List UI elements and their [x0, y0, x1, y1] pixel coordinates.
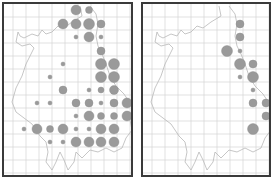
- record-dot: [48, 75, 52, 79]
- record-dot: [236, 33, 244, 41]
- record-dot: [87, 127, 91, 131]
- record-dot: [74, 114, 78, 118]
- record-dot: [222, 46, 233, 57]
- record-dot: [97, 20, 105, 28]
- record-dot: [71, 137, 81, 147]
- record-dot: [235, 59, 246, 70]
- record-dot: [96, 72, 107, 83]
- map-right-svg: [143, 4, 271, 177]
- record-dot: [110, 86, 119, 95]
- record-dot: [61, 140, 65, 144]
- record-dot: [58, 19, 68, 29]
- record-dot: [122, 111, 132, 121]
- record-dot: [248, 124, 259, 135]
- record-dot: [111, 113, 118, 120]
- record-dot: [74, 35, 78, 39]
- record-dot: [48, 101, 52, 105]
- record-dot: [96, 124, 106, 134]
- record-dot: [262, 112, 270, 120]
- record-dot: [122, 98, 132, 108]
- record-dot: [262, 99, 270, 107]
- record-dot: [236, 20, 244, 28]
- record-dot: [22, 127, 26, 131]
- record-dot: [71, 5, 81, 15]
- record-dot: [110, 99, 118, 107]
- map-left-svg: [4, 4, 133, 177]
- record-dot: [249, 99, 257, 107]
- record-dot: [74, 127, 78, 131]
- record-dot: [84, 111, 94, 121]
- record-dot: [98, 87, 104, 93]
- record-dot: [85, 99, 93, 107]
- record-dot: [96, 59, 107, 70]
- record-dot: [84, 19, 95, 30]
- record-dot: [99, 101, 103, 105]
- record-dot: [109, 124, 119, 134]
- record-dot: [59, 86, 67, 94]
- record-dot: [47, 126, 54, 133]
- record-dot: [71, 19, 81, 29]
- record-dot: [98, 113, 105, 120]
- record-dot: [87, 88, 91, 92]
- record-dot: [96, 137, 106, 147]
- record-dot: [109, 72, 120, 83]
- record-dot: [86, 7, 93, 14]
- record-dot: [97, 47, 105, 55]
- record-dot: [72, 99, 80, 107]
- record-dot: [58, 124, 68, 134]
- record-dot: [238, 49, 242, 53]
- record-dot: [35, 101, 39, 105]
- map-panel-left: [2, 2, 133, 177]
- record-dot: [61, 62, 65, 66]
- record-dot: [84, 137, 94, 147]
- record-dot: [99, 35, 103, 39]
- record-dot: [248, 72, 259, 83]
- record-dot: [251, 88, 255, 92]
- record-dot: [249, 60, 257, 68]
- record-dot: [84, 32, 94, 42]
- record-dot: [109, 59, 120, 70]
- record-dot: [238, 75, 242, 79]
- record-dot: [48, 140, 52, 144]
- record-dot: [32, 124, 42, 134]
- record-dot: [109, 137, 119, 147]
- map-panel-right: [141, 2, 271, 177]
